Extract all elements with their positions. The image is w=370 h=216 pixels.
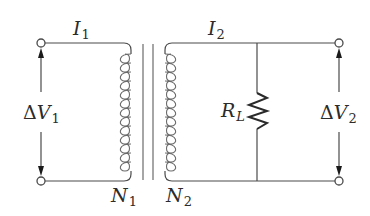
transformer-core	[143, 44, 153, 180]
load-resistor	[249, 93, 267, 129]
label-turns-secondary: N2	[166, 186, 192, 208]
terminals	[37, 39, 343, 185]
primary-bottom-terminal	[37, 177, 45, 185]
label-current-secondary: I2	[208, 19, 225, 41]
label-voltage-primary: ΔV1	[23, 103, 60, 125]
transformer-diagram: I1 I2 ΔV1 ΔV2 N1 N2 RL	[0, 0, 370, 216]
primary-top-terminal	[37, 39, 45, 47]
primary-coil	[120, 54, 131, 171]
label-load-resistance: RL	[221, 101, 245, 123]
secondary-wires	[165, 43, 335, 181]
secondary-bottom-terminal	[335, 177, 343, 185]
label-voltage-secondary: ΔV2	[320, 103, 357, 125]
secondary-top-terminal	[335, 39, 343, 47]
secondary-coil	[165, 54, 176, 171]
label-current-primary: I1	[73, 19, 90, 41]
label-turns-primary: N1	[111, 186, 137, 208]
